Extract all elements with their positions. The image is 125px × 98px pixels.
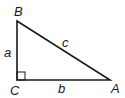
vertex-label-b: B bbox=[14, 4, 23, 19]
side-label-b: b bbox=[58, 81, 65, 96]
vertex-label-a: A bbox=[110, 81, 120, 96]
triangle-outline bbox=[17, 21, 110, 80]
side-label-c: c bbox=[62, 35, 69, 50]
right-triangle-diagram: B a c C b A bbox=[0, 0, 125, 98]
vertex-label-c: C bbox=[10, 83, 20, 98]
side-label-a: a bbox=[4, 45, 11, 60]
right-angle-marker bbox=[17, 72, 25, 80]
